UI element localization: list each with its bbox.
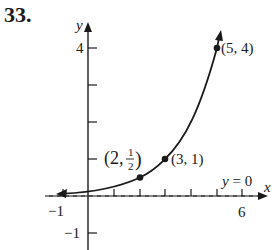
point-label-2-half: (2, 1 2 ): [104, 146, 142, 172]
point-2-half: [137, 174, 144, 181]
y-tick-label-neg1: −1: [64, 225, 80, 241]
y-axis-arrow-icon: [84, 22, 92, 32]
svg-text:): ): [135, 148, 142, 171]
svg-text:(2,: (2,: [104, 148, 124, 169]
y-axis-label: y: [74, 17, 83, 33]
x-axis-label: x: [263, 179, 271, 195]
x-tick-label-6: 6: [238, 204, 246, 220]
x-tick-label-neg1: −1: [48, 203, 64, 219]
graph: y x 4 −1 −1 6 y = 0 (5, 4) (3, 1) (2, 1 …: [0, 0, 276, 250]
svg-text:2: 2: [128, 160, 134, 172]
x-ticks: [63, 189, 242, 196]
point-label-3-1: (3, 1): [171, 151, 204, 168]
svg-text:1: 1: [128, 146, 134, 158]
asymptote-label: y = 0: [220, 173, 252, 189]
y-tick-label-4: 4: [76, 40, 84, 56]
point-label-5-4: (5, 4): [221, 40, 254, 57]
point-3-1: [162, 156, 169, 163]
point-5-4: [214, 45, 221, 52]
y-ticks: [88, 48, 97, 233]
exponential-curve: [63, 38, 219, 194]
